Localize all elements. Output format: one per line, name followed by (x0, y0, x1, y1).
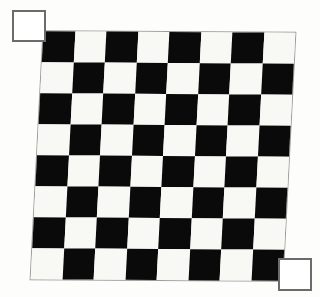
checkerboard-cell-light-r1c4 (136, 32, 169, 63)
checkerboard-cell-dark-r2c6 (198, 63, 231, 94)
checkerboard-cell-light-r1c6 (199, 32, 232, 63)
marker-square-bottom-right (278, 258, 312, 291)
checkerboard-cell-dark-r2c2 (72, 62, 105, 93)
checkerboard-cell-light-r7c6 (190, 218, 223, 249)
checkerboard-cell-dark-r6c8 (254, 188, 287, 219)
checkerboard-cell-dark-r4c4 (132, 125, 165, 156)
checkerboard-cell-dark-r1c1 (42, 31, 75, 62)
scene-canvas (0, 0, 320, 297)
checkerboard-cell-light-r5c6 (193, 156, 226, 187)
checkerboard-cell-light-r2c1 (40, 62, 73, 93)
checkerboard-cell-dark-r8c2 (62, 248, 95, 279)
checkerboard-cell-light-r7c2 (64, 217, 97, 248)
checkerboard-cell-dark-r7c1 (32, 217, 65, 248)
checkerboard (31, 31, 296, 281)
checkerboard-cell-dark-r1c3 (105, 32, 138, 63)
checkerboard-cell-dark-r8c6 (188, 249, 221, 280)
checkerboard-cell-light-r1c2 (73, 31, 106, 62)
checkerboard-cell-dark-r5c5 (161, 156, 194, 187)
checkerboard-cell-light-r5c2 (67, 155, 100, 186)
checkerboard-cell-light-r8c5 (157, 249, 190, 280)
checkerboard-cell-light-r4c5 (163, 125, 196, 156)
checkerboard-cell-dark-r4c2 (69, 124, 102, 155)
checkerboard-cell-dark-r3c7 (228, 94, 261, 125)
checkerboard-cell-light-r7c4 (127, 218, 160, 249)
checkerboard-cell-light-r8c3 (94, 249, 127, 280)
checkerboard-cell-light-r4c7 (226, 125, 259, 156)
checkerboard-cell-dark-r1c7 (231, 32, 264, 63)
checkerboard-cell-light-r3c2 (70, 93, 103, 124)
checkerboard-cell-dark-r5c1 (35, 155, 68, 186)
checkerboard-cell-light-r3c4 (133, 94, 166, 125)
checkerboard-container (0, 0, 320, 297)
checkerboard-cell-dark-r6c2 (65, 186, 98, 217)
checkerboard-cell-dark-r3c1 (39, 93, 72, 124)
checkerboard-cell-light-r5c4 (130, 156, 163, 187)
checkerboard-cell-light-r2c3 (103, 63, 136, 94)
checkerboard-cell-dark-r6c4 (128, 187, 161, 218)
checkerboard-cell-light-r6c5 (160, 187, 193, 218)
checkerboard-cell-dark-r3c5 (165, 94, 198, 125)
checkerboard-cell-light-r2c7 (229, 63, 262, 94)
checkerboard-cell-dark-r7c7 (221, 218, 254, 249)
checkerboard-cell-light-r6c3 (97, 187, 130, 218)
checkerboard-cell-light-r4c3 (100, 125, 133, 156)
checkerboard-cell-dark-r2c8 (261, 64, 294, 95)
checkerboard-cell-light-r3c6 (196, 94, 229, 125)
checkerboard-cell-light-r5c8 (256, 157, 289, 188)
checkerboard-cell-light-r2c5 (166, 63, 199, 94)
checkerboard-cell-light-r6c1 (34, 186, 67, 217)
checkerboard-cell-dark-r6c6 (191, 187, 224, 218)
checkerboard-cell-dark-r7c5 (158, 218, 191, 249)
checkerboard-cell-dark-r5c7 (224, 156, 257, 187)
checkerboard-cell-dark-r4c6 (194, 125, 227, 156)
checkerboard-cell-dark-r7c3 (95, 218, 128, 249)
checkerboard-cell-dark-r4c8 (257, 126, 290, 157)
checkerboard-cell-light-r8c7 (220, 249, 253, 280)
checkerboard-cell-light-r7c8 (253, 219, 286, 250)
checkerboard-cell-light-r4c1 (37, 124, 70, 155)
checkerboard-cell-light-r3c8 (259, 95, 292, 126)
checkerboard-cell-dark-r5c3 (98, 156, 131, 187)
checkerboard-cell-dark-r1c5 (168, 32, 201, 63)
checkerboard-cell-light-r1c8 (262, 33, 295, 64)
checkerboard-cell-light-r6c7 (223, 187, 256, 218)
checkerboard-cell-light-r8c1 (31, 248, 64, 279)
marker-square-top-left (12, 10, 46, 42)
checkerboard-cell-dark-r2c4 (135, 63, 168, 94)
checkerboard-cell-dark-r8c4 (125, 249, 158, 280)
checkerboard-cell-dark-r3c3 (102, 94, 135, 125)
